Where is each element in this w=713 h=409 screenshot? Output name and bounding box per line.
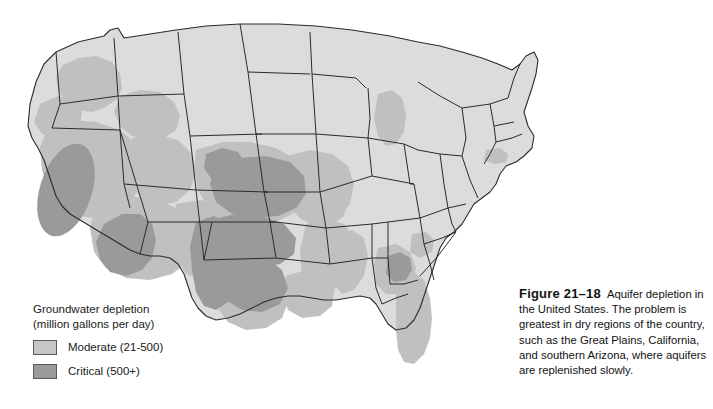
legend-item-critical: Critical (500+): [33, 364, 233, 379]
critical-swatch-icon: [33, 364, 57, 379]
legend-title: Groundwater depletion (million gallons p…: [33, 302, 233, 331]
legend-label-critical: Critical (500+): [68, 365, 140, 378]
map-legend: Groundwater depletion (million gallons p…: [33, 302, 233, 388]
figure-caption-text: Aquifer depletion in the United States. …: [519, 288, 706, 376]
moderate-swatch-icon: [33, 340, 57, 355]
figure-number: Figure 21–18: [519, 286, 601, 301]
legend-item-moderate: Moderate (21-500): [33, 340, 233, 355]
figure-caption: Figure 21–18Aquifer depletion in the Uni…: [519, 286, 709, 378]
figure-container: Groundwater depletion (million gallons p…: [0, 0, 713, 409]
legend-label-moderate: Moderate (21-500): [68, 341, 163, 354]
